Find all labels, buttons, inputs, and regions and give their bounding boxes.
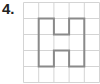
problem-number: 4. — [2, 1, 15, 17]
grid-diagram — [23, 2, 100, 83]
h-shape-outline — [39, 19, 85, 67]
grid-lines — [24, 3, 100, 83]
